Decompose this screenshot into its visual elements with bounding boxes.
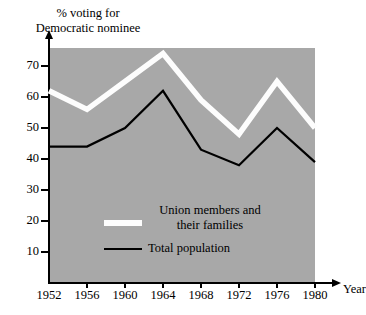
legend-swatch-total-population <box>104 248 142 250</box>
y-axis-tick-label: 70 <box>0 58 39 73</box>
y-axis-tick-label: 20 <box>0 213 39 228</box>
legend-label-union-members: Union members and their families <box>146 203 274 233</box>
legend-label-total-population: Total population <box>148 241 230 256</box>
y-axis-tick-label: 10 <box>0 244 39 259</box>
y-axis-tick-label: 60 <box>0 89 39 104</box>
y-axis-tick-label: 50 <box>0 120 39 135</box>
x-axis-title: Year <box>343 282 366 297</box>
y-axis-tick-label: 30 <box>0 182 39 197</box>
y-axis-tick-label: 40 <box>0 151 39 166</box>
arrow-up-icon <box>45 30 53 39</box>
chart-title: % voting for Democratic nominee <box>8 6 168 36</box>
series-line <box>49 91 315 165</box>
legend-swatch-union-members <box>104 220 142 226</box>
x-axis-tick-label: 1980 <box>293 288 337 303</box>
arrow-right-icon <box>332 279 341 287</box>
